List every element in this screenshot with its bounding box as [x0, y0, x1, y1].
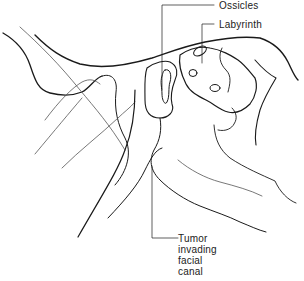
tumor-leader: [152, 166, 178, 238]
label-tumor-line-2: invading: [178, 244, 217, 255]
labyrinth-canal-3: [210, 85, 220, 92]
label-tumor-line-1: Tumor: [178, 233, 217, 244]
outer-contour: [3, 33, 102, 95]
label-tumor-line-3: facial: [178, 255, 217, 266]
label-tumor: Tumor invading facial canal: [178, 233, 217, 277]
labyrinth-contour: [179, 47, 256, 112]
upper-contour: [35, 35, 298, 80]
labyrinth-canal-2: [189, 70, 197, 77]
ossicles-shape: [161, 70, 171, 104]
labyrinth-canal-1: [192, 44, 208, 58]
labyrinth-leader: [202, 24, 214, 63]
label-ossicles: Ossicles: [219, 0, 258, 11]
middle-ear-contour: [145, 61, 177, 118]
label-tumor-line-4: canal: [178, 266, 217, 277]
mastoid-contour: [255, 60, 276, 145]
anatomy-drawing: [0, 0, 304, 281]
lower-contour: [151, 118, 266, 232]
label-labyrinth: Labyrinth: [219, 19, 262, 30]
